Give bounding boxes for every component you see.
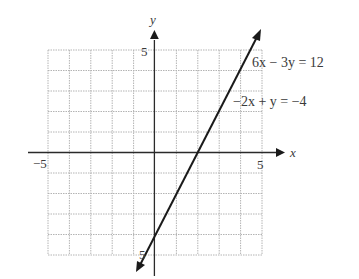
x-axis-label: x [289, 145, 296, 160]
x-axis-arrow-icon [276, 148, 285, 157]
y-axis-arrow-icon [150, 30, 159, 39]
equation-label-1: 6x − 3y = 12 [252, 55, 324, 70]
equation-label-2: −2x + y = −4 [233, 94, 307, 109]
line-arrow-top-icon [252, 29, 261, 41]
x-min-tick: −5 [33, 156, 47, 171]
line-series [140, 37, 257, 265]
y-min-tick: 5 [139, 247, 146, 262]
y-axis-label: y [148, 12, 156, 27]
y-max-tick: 5 [141, 44, 148, 59]
chart-canvas: x y −5 5 5 5 6x − 3y = 12 −2x + y = −4 [0, 0, 359, 279]
x-max-tick: 5 [257, 157, 264, 172]
